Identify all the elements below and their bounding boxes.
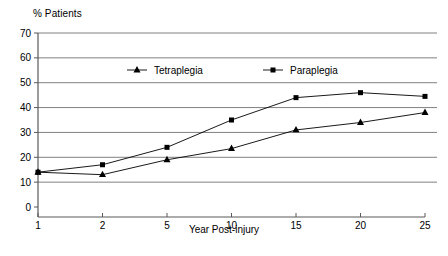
x-axis-label: Year Post-injury: [0, 224, 448, 235]
y-tick-label: 30: [20, 127, 32, 138]
gridlines-group: [38, 33, 437, 217]
data-point-square: [165, 145, 170, 150]
chart-plot-area: 010203040506070 12510152025 TetraplegiaP…: [0, 0, 448, 256]
data-point-square: [423, 94, 428, 99]
y-tick-label: 70: [20, 28, 32, 39]
y-tick-label: 50: [20, 77, 32, 88]
data-point-triangle: [134, 66, 141, 72]
y-axis-ticks-group: 010203040506070: [20, 28, 38, 213]
data-series-group: [35, 90, 429, 177]
y-tick-label: 20: [20, 152, 32, 163]
y-tick-label: 40: [20, 102, 32, 113]
chart-container: % Patients 010203040506070 12510152025 T…: [0, 0, 448, 256]
data-point-square: [36, 170, 41, 175]
data-point-square: [294, 95, 299, 100]
data-point-square: [100, 162, 105, 167]
y-tick-label: 60: [20, 52, 32, 63]
chart-legend: TetraplegiaParaplegia: [127, 65, 338, 76]
data-point-square: [271, 68, 276, 73]
data-point-square: [229, 118, 234, 123]
y-tick-label: 0: [25, 202, 31, 213]
y-tick-label: 10: [20, 177, 32, 188]
data-point-triangle: [293, 126, 300, 132]
data-point-square: [358, 90, 363, 95]
legend-label-tetraplegia: Tetraplegia: [154, 65, 203, 76]
data-point-triangle: [422, 109, 429, 115]
legend-label-paraplegia: Paraplegia: [290, 65, 338, 76]
